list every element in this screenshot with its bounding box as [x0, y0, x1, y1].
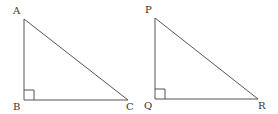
triangles-figure: A B C P Q R — [0, 0, 278, 114]
vertex-label-p: P — [145, 4, 152, 15]
vertex-label-r: R — [258, 100, 266, 111]
triangle-abc-shape — [24, 19, 128, 100]
vertex-label-b: B — [13, 101, 20, 112]
diagram-canvas: A B C P Q R — [0, 0, 278, 114]
triangle-pqr: P Q R — [144, 4, 266, 111]
triangle-abc: A B C — [12, 5, 134, 112]
vertex-label-c: C — [126, 101, 134, 112]
vertex-label-a: A — [12, 5, 21, 16]
triangle-pqr-shape — [155, 18, 258, 99]
right-angle-marker-b — [24, 90, 34, 100]
right-angle-marker-q — [155, 89, 165, 99]
vertex-label-q: Q — [144, 100, 152, 111]
